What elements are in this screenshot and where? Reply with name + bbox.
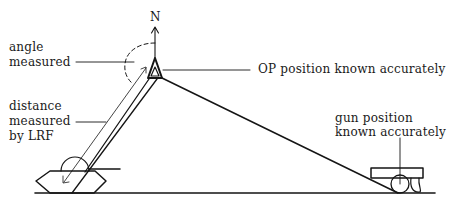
distance-label-line3: by LRF (9, 130, 54, 144)
distance-label-line2: measured (9, 115, 71, 129)
angle-label-line1: angle (9, 41, 44, 55)
gun-icon (371, 168, 423, 193)
gun-label-line1: gun position (335, 112, 413, 126)
distance-arrow-icon (63, 67, 146, 183)
angle-label-line2: measured (9, 56, 71, 70)
sightline-right-edge (72, 79, 157, 193)
distance-label-line1: distance (9, 100, 62, 114)
artillery-survey-diagram (0, 0, 450, 203)
op-triangle-icon (148, 58, 162, 78)
sightline-left-edge (85, 79, 149, 172)
op-label: OP position known accurately (258, 63, 445, 77)
compass-label: N (150, 11, 161, 25)
gun-label-line2: known accurately (335, 126, 446, 140)
